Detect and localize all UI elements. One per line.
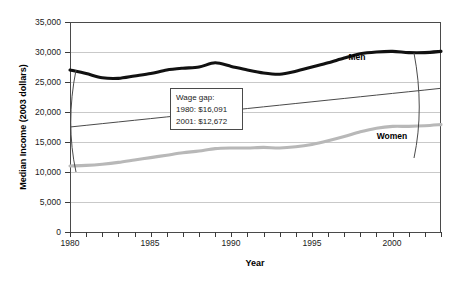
wage-gap-annotation: Wage gap: 1980: $16,091 2001: $12,672 — [171, 89, 243, 130]
chart-figure: 35,000 30,000 25,000 20,000 15,000 10,00… — [0, 0, 462, 286]
series-label-women: Women — [377, 131, 408, 141]
x-label-1990: 1990 — [222, 238, 241, 248]
y-label-5000: 5,000 — [40, 197, 62, 207]
x-label-1980: 1980 — [61, 238, 80, 248]
x-label-1995: 1995 — [303, 238, 322, 248]
y-axis-title: Median Income (2003 dollars) — [18, 64, 28, 190]
x-label-2000: 2000 — [383, 238, 402, 248]
y-label-10000: 10,000 — [35, 167, 61, 177]
wage-gap-title: Wage gap: — [176, 93, 214, 102]
wage-gap-1980: 1980: $16,091 — [176, 105, 228, 114]
y-label-0: 0 — [56, 227, 61, 237]
series-label-men: Men — [349, 52, 366, 62]
y-label-25000: 25,000 — [35, 77, 61, 87]
x-axis-title: Year — [245, 258, 265, 268]
y-label-15000: 15,000 — [35, 137, 61, 147]
y-label-30000: 30,000 — [35, 47, 61, 57]
y-label-35000: 35,000 — [35, 17, 61, 27]
wage-gap-2001: 2001: $12,672 — [176, 117, 228, 126]
y-label-20000: 20,000 — [35, 107, 61, 117]
x-label-1985: 1985 — [141, 238, 160, 248]
income-line-chart: 35,000 30,000 25,000 20,000 15,000 10,00… — [0, 0, 462, 286]
